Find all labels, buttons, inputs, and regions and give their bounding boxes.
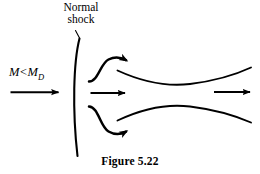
normal-shock-label-line1: Normal — [54, 1, 108, 13]
mach-condition-label: M<MD — [9, 66, 44, 82]
figure-caption: Figure5.22 — [0, 155, 260, 167]
mach-compare-symbol: M — [27, 65, 37, 79]
upper-deflected-flow-arrow — [89, 58, 126, 82]
normal-shock-wave — [74, 39, 79, 157]
figure-container: Normal shock M<MD Figure5.22 — [0, 0, 260, 174]
upper-streamline — [118, 68, 252, 85]
figure-caption-number: 5.22 — [138, 155, 159, 167]
figure-caption-prefix: Figure — [101, 155, 135, 167]
normal-shock-label: Normal shock — [54, 1, 108, 26]
mach-symbol: M — [9, 65, 19, 79]
lower-streamline — [118, 106, 252, 123]
lower-deflected-flow-arrow — [89, 107, 126, 134]
flow-diagram-svg — [0, 0, 260, 174]
mach-compare-subscript: D — [38, 72, 44, 82]
normal-shock-leader — [76, 31, 80, 39]
normal-shock-label-line2: shock — [54, 13, 108, 25]
